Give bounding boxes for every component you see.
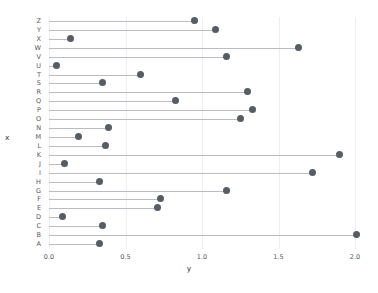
lollipop-marker[interactable] — [223, 187, 230, 194]
lollipop-marker[interactable] — [212, 26, 219, 33]
lollipop-stem — [49, 235, 357, 236]
y-tick-label: A — [11, 240, 41, 249]
lollipop-row — [49, 17, 375, 26]
lollipop-marker[interactable] — [99, 79, 106, 86]
lollipop-marker[interactable] — [295, 44, 302, 51]
lollipop-stem — [49, 146, 106, 147]
lollipop-stem — [49, 191, 226, 192]
y-tick-label: Q — [11, 97, 41, 106]
y-tick-label: X — [11, 35, 41, 44]
lollipop-marker[interactable] — [154, 204, 161, 211]
lollipop-marker[interactable] — [53, 62, 60, 69]
lollipop-row — [49, 151, 375, 160]
lollipop-stem — [49, 21, 194, 22]
lollipop-stem — [49, 83, 103, 84]
lollipop-marker[interactable] — [102, 142, 109, 149]
lollipop-stem — [49, 244, 99, 245]
lollipop-row — [49, 79, 375, 88]
lollipop-chart: ZYXWVUTSRQPONMLKJIHGFEDCBA x y 0.00.51.0… — [0, 0, 378, 293]
lollipop-stem — [49, 75, 141, 76]
lollipop-row — [49, 106, 375, 115]
lollipop-marker[interactable] — [96, 240, 103, 247]
lollipop-row — [49, 97, 375, 106]
lollipop-row — [49, 178, 375, 187]
lollipop-marker[interactable] — [59, 213, 66, 220]
lollipop-stem — [49, 48, 298, 49]
y-tick-label: I — [11, 169, 41, 178]
lollipop-marker[interactable] — [309, 169, 316, 176]
lollipop-marker[interactable] — [157, 195, 164, 202]
x-tick-label: 1.0 — [197, 253, 207, 261]
lollipop-row — [49, 62, 375, 71]
lollipop-marker[interactable] — [172, 97, 179, 104]
x-tick-label: 1.5 — [273, 253, 283, 261]
y-tick-label: S — [11, 79, 41, 88]
lollipop-stem — [49, 155, 340, 156]
lollipop-row — [49, 44, 375, 53]
lollipop-marker[interactable] — [75, 133, 82, 140]
lollipop-stem — [49, 173, 312, 174]
x-tick-label: 0.0 — [44, 253, 54, 261]
lollipop-marker[interactable] — [137, 71, 144, 78]
y-tick-label: L — [11, 142, 41, 151]
x-tick-label: 0.5 — [120, 253, 130, 261]
y-tick-label: T — [11, 71, 41, 80]
lollipop-marker[interactable] — [249, 106, 256, 113]
lollipop-row — [49, 169, 375, 178]
lollipop-row — [49, 240, 375, 249]
y-tick-label: U — [11, 62, 41, 71]
lollipop-stem — [49, 226, 103, 227]
lollipop-row — [49, 35, 375, 44]
lollipop-marker[interactable] — [191, 17, 198, 24]
y-tick-label: D — [11, 213, 41, 222]
lollipop-stem — [49, 137, 78, 138]
lollipop-stem — [49, 119, 240, 120]
y-tick-label: W — [11, 44, 41, 53]
lollipop-stem — [49, 128, 109, 129]
y-axis-label: x — [5, 133, 9, 142]
lollipop-stem — [49, 110, 252, 111]
lollipop-row — [49, 231, 375, 240]
y-tick-label: R — [11, 88, 41, 97]
lollipop-row — [49, 195, 375, 204]
lollipop-row — [49, 204, 375, 213]
x-tick-label: 2.0 — [350, 253, 360, 261]
y-tick-label: J — [11, 160, 41, 169]
y-tick-label: F — [11, 195, 41, 204]
lollipop-row — [49, 53, 375, 62]
y-tick-label: Z — [11, 17, 41, 26]
lollipop-marker[interactable] — [96, 178, 103, 185]
y-tick-label: E — [11, 204, 41, 213]
lollipop-marker[interactable] — [237, 115, 244, 122]
lollipop-row — [49, 187, 375, 196]
lollipop-marker[interactable] — [336, 151, 343, 158]
lollipop-row — [49, 142, 375, 151]
lollipop-stem — [49, 30, 216, 31]
y-tick-label: V — [11, 53, 41, 62]
lollipop-marker[interactable] — [105, 124, 112, 131]
y-tick-label: B — [11, 231, 41, 240]
lollipop-row — [49, 133, 375, 142]
lollipop-marker[interactable] — [61, 160, 68, 167]
y-tick-label: Y — [11, 26, 41, 35]
lollipop-row — [49, 222, 375, 231]
y-tick-label: P — [11, 106, 41, 115]
lollipop-stem — [49, 199, 161, 200]
lollipop-stem — [49, 57, 226, 58]
y-tick-label: H — [11, 178, 41, 187]
lollipop-stem — [49, 92, 248, 93]
y-tick-label: K — [11, 151, 41, 160]
x-axis-label: y — [0, 264, 378, 273]
lollipop-stem — [49, 208, 158, 209]
lollipop-row — [49, 71, 375, 80]
lollipop-row — [49, 88, 375, 97]
lollipop-marker[interactable] — [244, 88, 251, 95]
lollipop-marker[interactable] — [67, 35, 74, 42]
lollipop-row — [49, 124, 375, 133]
lollipop-row — [49, 160, 375, 169]
lollipop-marker[interactable] — [223, 53, 230, 60]
lollipop-marker[interactable] — [353, 231, 360, 238]
lollipop-marker[interactable] — [99, 222, 106, 229]
y-tick-label: M — [11, 133, 41, 142]
lollipop-row — [49, 213, 375, 222]
